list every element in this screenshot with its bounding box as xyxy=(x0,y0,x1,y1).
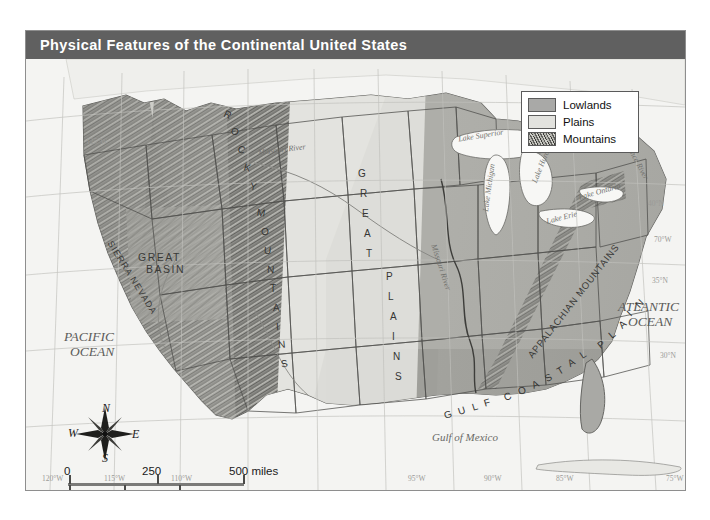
map-title-bar: Physical Features of the Continental Uni… xyxy=(26,31,686,59)
coord-95w: 95°W xyxy=(408,474,426,483)
legend-label-lowlands: Lowlands xyxy=(563,99,612,111)
scale-bar-line xyxy=(68,483,244,486)
compass-west-label: W xyxy=(68,426,78,441)
map-frame: Physical Features of the Continental Uni… xyxy=(25,30,686,491)
coord-90w: 90°W xyxy=(484,474,502,483)
compass-east-label: E xyxy=(132,427,139,442)
legend-item-mountains: Mountains xyxy=(528,131,632,147)
coord-85w: 85°W xyxy=(556,474,574,483)
legend-label-plains: Plains xyxy=(563,116,594,128)
coord-40n: 40°N xyxy=(648,199,664,208)
mountains-swatch-icon xyxy=(528,132,556,146)
legend-label-mountains: Mountains xyxy=(563,133,616,145)
coord-75w: 75°W xyxy=(666,474,684,483)
coord-125w: 125°W xyxy=(86,137,107,146)
coord-35n: 35°N xyxy=(652,276,668,285)
legend-item-lowlands: Lowlands xyxy=(528,97,632,113)
compass-north-label: N xyxy=(102,401,110,416)
scale-miles-0: 0 xyxy=(64,465,70,477)
scale-tick-km-250 xyxy=(124,485,126,491)
lowlands-swatch-icon xyxy=(528,98,556,112)
coord-70w: 70°W xyxy=(654,235,672,244)
scale-miles-500-label: 500 miles xyxy=(229,465,278,477)
map-page: Physical Features of the Continental Uni… xyxy=(0,0,710,520)
compass-south-label: S xyxy=(102,451,108,466)
scale-tick-km-0 xyxy=(69,485,71,491)
coord-30n: 30°N xyxy=(660,351,676,360)
map-scale-bar: 0 250 500 miles 0 250 500 kilometers xyxy=(62,465,292,491)
coord-120w: 120°W xyxy=(42,474,63,483)
compass-rose: N S W E xyxy=(62,403,148,469)
plains-swatch-icon xyxy=(528,115,556,129)
legend-item-plains: Plains xyxy=(528,114,632,130)
scale-miles-250: 250 xyxy=(142,465,161,477)
map-legend: Lowlands Plains Mountains xyxy=(521,91,639,153)
scale-tick-km-500 xyxy=(179,485,181,491)
page-title: Physical Features of the Continental Uni… xyxy=(26,37,407,53)
